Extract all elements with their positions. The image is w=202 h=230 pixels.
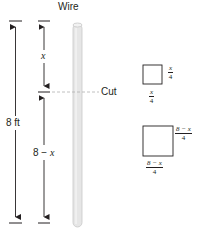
small-square [143,65,162,84]
cut-label: Cut [101,87,117,97]
large-square-side-right: 8 − x 4 [175,126,192,142]
bottom-piece-label-operator: − [41,147,47,158]
large-square-side-bottom: 8 − x 4 [146,160,163,176]
bottom-piece-label: 8 − x [33,148,54,158]
large-square [143,126,173,156]
top-piece-label: x [41,51,45,61]
bottom-piece-label-number: 8 [33,147,39,158]
total-length-label: 8 ft [6,118,20,128]
small-square-side-bottom: x 4 [149,89,154,105]
wire-diagram-graphics [0,0,202,230]
wire-rod [73,23,82,227]
wire-label: Wire [58,2,79,12]
small-square-side-right: x 4 [168,65,173,81]
bottom-piece-dimension [38,98,50,223]
bottom-piece-label-variable: x [50,147,54,158]
